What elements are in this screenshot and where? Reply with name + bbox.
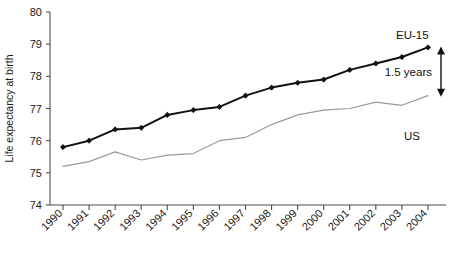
- y-tick-label: 76: [30, 135, 42, 147]
- chart-axes: [50, 12, 446, 205]
- y-tick-label: 75: [30, 167, 42, 179]
- x-tick-label: 1999: [273, 207, 299, 233]
- x-axis-ticks: 1990199119921993199419951996199719981999…: [39, 205, 430, 233]
- data-point-marker: [347, 67, 352, 72]
- x-tick-label: 1996: [195, 207, 221, 233]
- data-point-marker: [269, 85, 274, 90]
- x-tick-label: 2002: [351, 207, 377, 233]
- x-tick-label: 1998: [247, 207, 273, 233]
- x-tick-label: 1994: [143, 207, 169, 233]
- series-inline-labels: EU-15US: [396, 29, 429, 142]
- x-tick-label: 1995: [169, 207, 195, 233]
- life-expectancy-line-chart: Life expectancy at birth 74757677787980 …: [0, 0, 464, 255]
- x-tick-label: 2000: [299, 207, 325, 233]
- x-tick-label: 2004: [404, 207, 430, 233]
- x-tick-label: 2003: [378, 207, 404, 233]
- gap-arrow-head-down: [437, 89, 445, 97]
- x-tick-label: 1991: [65, 207, 91, 233]
- y-tick-label: 77: [30, 103, 42, 115]
- data-point-marker: [373, 61, 378, 66]
- y-axis-ticks: 74757677787980: [30, 6, 50, 211]
- chart-series: [60, 45, 430, 167]
- y-axis-title: Life expectancy at birth: [3, 54, 15, 162]
- x-tick-label: 2001: [325, 207, 351, 233]
- y-tick-label: 74: [30, 199, 42, 211]
- x-tick-label: 1990: [39, 207, 65, 233]
- y-axis-title-text: Life expectancy at birth: [3, 54, 15, 162]
- y-tick-label: 80: [30, 6, 42, 18]
- y-tick-label: 79: [30, 38, 42, 50]
- chart-container: Life expectancy at birth 74757677787980 …: [0, 0, 464, 255]
- series-line-us: [63, 96, 428, 167]
- data-point-marker: [191, 108, 196, 113]
- x-tick-label: 1993: [117, 207, 143, 233]
- x-tick-label: 1997: [221, 207, 247, 233]
- gap-arrow-head-up: [437, 46, 445, 54]
- gap-annotation-label: 1.5 years: [385, 66, 433, 78]
- x-tick-label: 1992: [91, 207, 117, 233]
- data-point-marker: [321, 77, 326, 82]
- chart-annotations: 1.5 years: [385, 46, 445, 96]
- data-point-marker: [60, 145, 65, 150]
- data-point-marker: [295, 80, 300, 85]
- y-tick-label: 78: [30, 70, 42, 82]
- data-point-marker: [399, 54, 404, 59]
- series-label-eu15: EU-15: [396, 29, 429, 41]
- data-point-marker: [425, 45, 430, 50]
- series-label-us: US: [404, 130, 420, 142]
